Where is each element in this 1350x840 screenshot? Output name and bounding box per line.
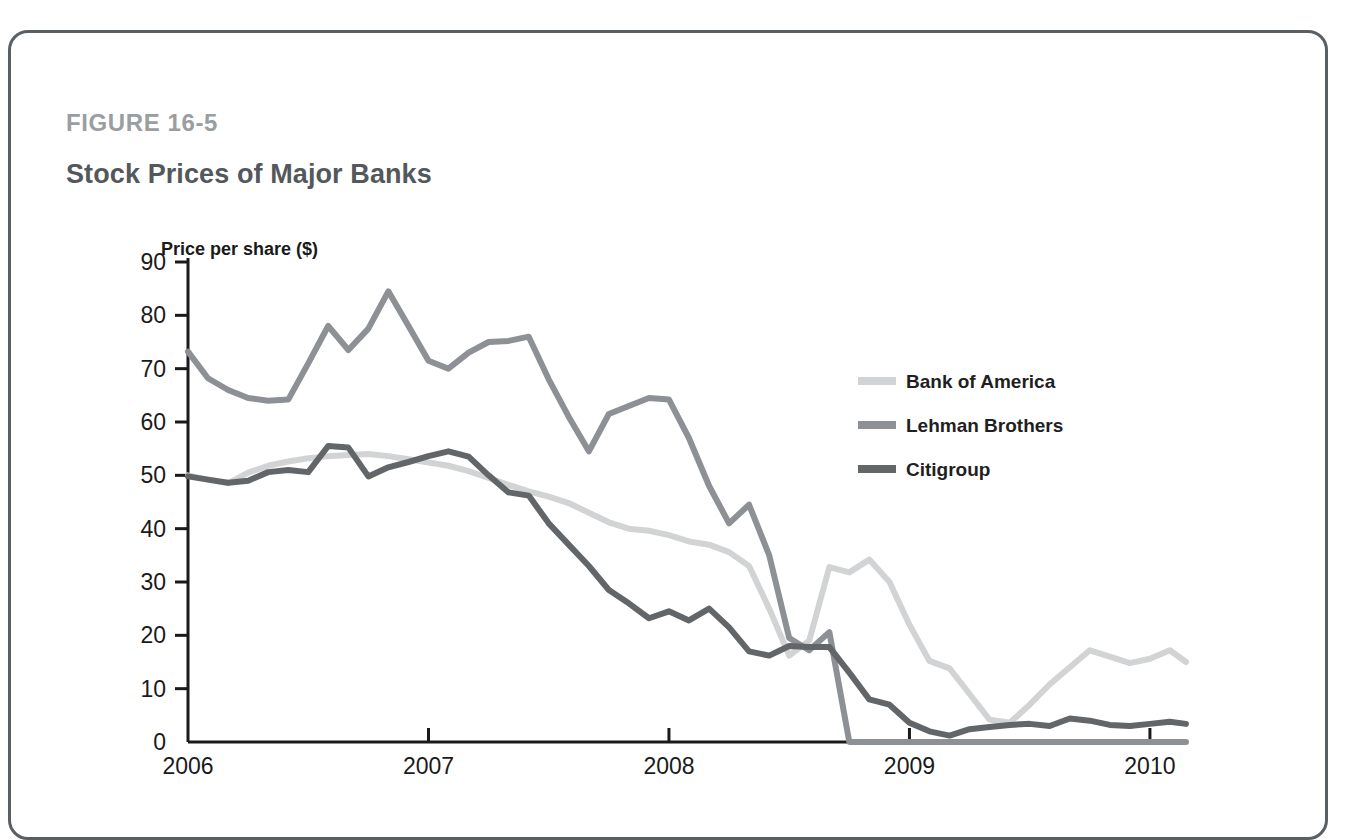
- x-tick-label: 2007: [403, 753, 454, 779]
- series-line-citigroup: [188, 446, 1186, 736]
- series-line-bank-of-america: [188, 454, 1186, 723]
- x-tick-label: 2010: [1124, 753, 1175, 779]
- y-tick-label: 20: [140, 622, 166, 648]
- y-tick-label: 0: [153, 729, 166, 755]
- x-tick-label: 2006: [162, 753, 213, 779]
- x-tick-label: 2008: [643, 753, 694, 779]
- x-axis-ticks: 20062007200820092010: [162, 728, 1175, 779]
- legend-label: Citigroup: [906, 459, 990, 480]
- chart-legend: Bank of AmericaLehman BrothersCitigroup: [858, 371, 1063, 480]
- y-tick-label: 60: [140, 409, 166, 435]
- y-tick-label: 10: [140, 676, 166, 702]
- series-line-lehman-brothers: [188, 291, 1186, 742]
- y-tick-label: 50: [140, 462, 166, 488]
- y-tick-label: 30: [140, 569, 166, 595]
- y-tick-label: 40: [140, 516, 166, 542]
- y-axis-ticks: 0102030405060708090: [140, 249, 188, 755]
- y-tick-label: 80: [140, 302, 166, 328]
- legend-label: Lehman Brothers: [906, 415, 1063, 436]
- y-tick-label: 90: [140, 249, 166, 275]
- y-tick-label: 70: [140, 356, 166, 382]
- legend-label: Bank of America: [906, 371, 1056, 392]
- x-tick-label: 2009: [884, 753, 935, 779]
- data-series-group: [188, 291, 1186, 742]
